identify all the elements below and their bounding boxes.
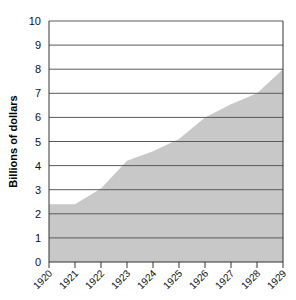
y-axis-tick-label-0: 0 bbox=[35, 256, 41, 268]
y-axis-tick-label-4: 4 bbox=[35, 160, 41, 172]
x-axis-tick-label-1920: 1920 bbox=[31, 267, 55, 291]
x-axis-tick-label-1927: 1927 bbox=[213, 267, 237, 291]
x-axis-tick-label-1924: 1924 bbox=[135, 267, 159, 291]
y-axis-tick-label-6: 6 bbox=[35, 111, 41, 123]
x-axis-tick-label-1925: 1925 bbox=[161, 267, 185, 291]
x-axis-tick-label-1928: 1928 bbox=[239, 267, 263, 291]
chart-container: 0123456789101920192119221923192419251926… bbox=[0, 0, 296, 300]
y-axis-tick-label-3: 3 bbox=[35, 184, 41, 196]
x-axis-tick-label-1926: 1926 bbox=[187, 267, 211, 291]
y-axis-tick-label-2: 2 bbox=[35, 208, 41, 220]
y-axis-tick-label-7: 7 bbox=[35, 87, 41, 99]
area-chart: 0123456789101920192119221923192419251926… bbox=[0, 0, 296, 300]
y-axis-tick-label-10: 10 bbox=[29, 15, 41, 27]
y-axis-tick-label-8: 8 bbox=[35, 63, 41, 75]
x-axis-tick-label-1922: 1922 bbox=[83, 267, 107, 291]
y-axis-tick-label-9: 9 bbox=[35, 39, 41, 51]
y-axis-tick-label-5: 5 bbox=[35, 136, 41, 148]
y-axis-tick-label-1: 1 bbox=[35, 232, 41, 244]
x-axis-tick-label-1929: 1929 bbox=[265, 267, 289, 291]
x-axis-tick-label-1923: 1923 bbox=[109, 267, 133, 291]
y-axis-title: Billions of dollars bbox=[7, 95, 19, 187]
x-axis-tick-label-1921: 1921 bbox=[57, 267, 81, 291]
